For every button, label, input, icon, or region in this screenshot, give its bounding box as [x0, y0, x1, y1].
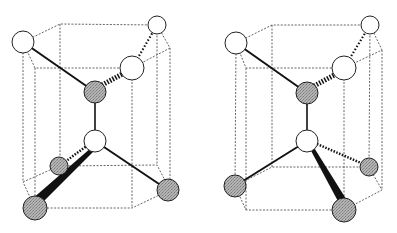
- atom-gray: [332, 198, 356, 222]
- atom-white: [361, 16, 379, 34]
- molecular-structure-diagram: [0, 0, 397, 233]
- atom-white: [148, 16, 166, 34]
- atom-gray: [224, 175, 246, 197]
- right-bonds: [235, 25, 370, 205]
- atom-gray: [23, 196, 47, 220]
- left-hex-prism: [23, 24, 170, 208]
- atom-white: [296, 130, 318, 152]
- diagram-canvas: [0, 0, 397, 233]
- atom-gray: [50, 157, 68, 175]
- atom-gray: [157, 179, 179, 201]
- atom-gray: [360, 158, 378, 176]
- left-bonds: [23, 25, 168, 206]
- left-structure: [12, 16, 179, 220]
- right-atoms: [224, 16, 379, 222]
- atom-white: [332, 56, 356, 80]
- right-hex-prism: [235, 25, 382, 210]
- atom-white: [84, 130, 106, 152]
- atom-white: [120, 56, 144, 80]
- atom-gray: [84, 81, 106, 103]
- right-structure: [224, 16, 382, 222]
- atom-white: [12, 31, 34, 53]
- atom-white: [225, 32, 247, 54]
- atom-gray: [296, 82, 318, 104]
